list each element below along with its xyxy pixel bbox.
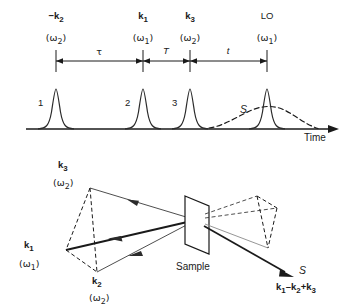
interval-label-t: t: [227, 46, 230, 56]
pulse-4-frequency-label: (ω1): [257, 33, 277, 46]
pulse-4-lo-label: LO: [261, 11, 274, 21]
pulse-2-frequency-label: (ω1): [133, 33, 153, 46]
incoming-beam-arrowheads: [108, 200, 143, 257]
signal-label-S: S: [240, 104, 247, 115]
signal-beam-arrowhead: [279, 270, 294, 278]
beam-label-k2: k2: [92, 276, 102, 289]
pulse-curve-1: [38, 89, 74, 129]
beam-line-k3: [90, 188, 196, 220]
right-construction-lines: [257, 196, 277, 248]
dash-r-top: [257, 196, 277, 208]
dash-r-right: [268, 208, 277, 248]
pulse-3-frequency-label: (ω2): [180, 33, 200, 46]
interval-label-T: T: [163, 46, 169, 56]
beam-line-k1: [66, 220, 196, 250]
beam-frequency-k2: (ω2): [89, 293, 109, 306]
beam-frequency-k3: (ω2): [53, 178, 73, 191]
phase-matching-label: k1–k2+k3: [276, 282, 316, 295]
pulse-number-1: 1: [38, 98, 43, 108]
pulse-number-3: 3: [172, 98, 177, 108]
time-axis-label: Time: [304, 133, 326, 143]
dash-k1-to-k2: [66, 250, 97, 272]
interval-label-tau: τ: [96, 47, 102, 57]
beam-frequency-k1: (ω1): [19, 259, 39, 272]
pulse-1-wavevector-label: −k2: [48, 11, 63, 24]
dash-k3-to-k2: [90, 188, 97, 272]
sample-plate: [185, 196, 209, 254]
sample-label: Sample: [176, 262, 210, 272]
pulse-curves: [38, 89, 285, 129]
pulse-curve-2: [125, 89, 161, 129]
pulse-2-wavevector-label: k1: [138, 11, 148, 24]
dash-r-left: [257, 196, 268, 248]
pulse-1-frequency-label: (ω2): [46, 33, 66, 46]
pulse-curve-3: [172, 89, 208, 129]
output-signal-label: S: [299, 265, 306, 276]
pulse-number-2: 2: [125, 98, 130, 108]
outgoing-beams: [204, 196, 294, 277]
pulse-3-wavevector-label: k3: [185, 11, 195, 24]
beam-label-k1: k1: [24, 240, 34, 253]
signal-envelope-curve: [209, 106, 318, 128]
diffracted-dashed-upper: [205, 196, 257, 214]
beam-label-k3: k3: [58, 160, 68, 173]
signal-beam-line: [204, 226, 285, 272]
interval-ruler: [56, 50, 267, 72]
dash-k3-to-k1: [66, 188, 90, 250]
diffracted-dashed-mid: [205, 208, 277, 218]
figure-root: −k2 k1 k3 LO (ω2) (ω1) (ω2) (ω1) τ T t 1…: [0, 0, 348, 306]
left-construction-lines: [66, 188, 97, 272]
